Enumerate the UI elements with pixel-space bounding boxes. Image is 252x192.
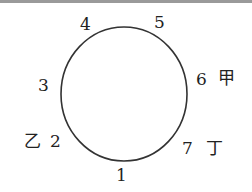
circle <box>61 27 187 161</box>
point-5-label: 5 <box>154 14 165 31</box>
point-6-tag: 甲 <box>218 70 235 87</box>
point-1-label: 1 <box>116 167 127 184</box>
circle-diagram <box>0 0 252 192</box>
point-7-tag: 丁 <box>206 140 223 157</box>
point-2-tag: 乙 <box>24 133 41 150</box>
point-7-label: 7 <box>182 140 193 157</box>
point-2-label: 2 <box>50 133 61 150</box>
point-3-label: 3 <box>38 77 49 94</box>
point-6-label: 6 <box>196 71 207 88</box>
point-4-label: 4 <box>80 16 91 33</box>
